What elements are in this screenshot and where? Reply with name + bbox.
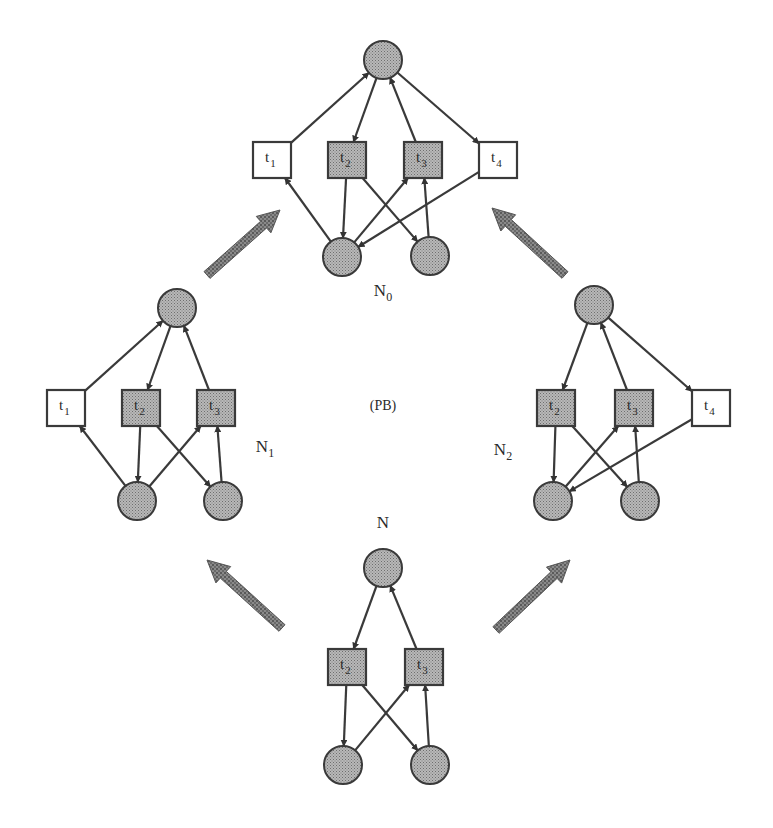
arc-N-p_br-to-t3 [425,685,429,746]
morphism-arrow-N1-to-N0 [204,210,280,278]
transition-N0-t4: t4 [479,142,517,178]
place-N-p_br [411,746,449,784]
arc-N2-t2-to-p_bl [554,426,556,482]
arc-N-p_bl-to-t3 [355,685,409,750]
arc-N1-t3-to-p_top [184,326,209,390]
arc-N1-p_br-to-t3 [217,426,221,482]
labels-layer: (PB) N0N1N2N [256,281,512,532]
arc-N2-t2-to-p_br [572,426,627,487]
place-N2-p_top [575,286,613,324]
morphism-arrow-N2-to-N0 [492,208,568,278]
petri-net-pushout-diagram: t1t2t3t4t1t2t3t2t3t4t2t3 (PB) N0N1N2N [0,0,773,828]
transition-N-t2: t2 [328,649,366,685]
place-N-p_top [364,549,402,587]
place-N1-p_br [204,482,242,520]
pushout-label: (PB) [370,398,397,414]
network-label-N1: N1 [256,437,274,460]
transition-N1-t3: t3 [197,390,235,426]
transition-N2-t2: t2 [537,390,575,426]
place-N1-p_top [158,289,196,327]
arc-N1-t2-to-p_bl [138,426,140,482]
arc-N0-t2-to-p_br [363,178,418,242]
arc-N0-t3-to-p_top [390,78,416,142]
transition-N1-t1: t1 [47,390,85,426]
arc-N0-p_bl-to-t1 [285,178,331,242]
transition-N0-t1: t1 [253,142,291,178]
place-N1-p_bl [118,482,156,520]
arc-N0-t4-to-p_bl [358,172,479,247]
arc-N1-t2-to-p_br [157,426,211,487]
morphism-arrow-N-to-N1 [207,560,285,631]
network-label-N: N [377,513,389,532]
arc-N0-p_top-to-t4 [397,72,479,143]
arc-N1-p_bl-to-t1 [80,426,126,486]
arc-N0-t2-to-p_bl [343,178,346,238]
arc-N-t3-to-p_top [390,586,416,649]
place-N2-p_br [621,482,659,520]
arc-N-p_top-to-t2 [354,586,377,649]
transition-N0-t2: t2 [328,142,366,178]
arc-N2-t4-to-p_bl [569,419,692,491]
transition-N2-t3: t3 [615,390,653,426]
arc-N2-t3-to-p_top [601,323,627,390]
place-N0-p_top [364,41,402,79]
morphism-arrow-N-to-N2 [493,560,570,633]
transition-N1-t2: t2 [122,390,160,426]
arc-N0-p_top-to-t2 [353,78,376,142]
arc-N2-p_br-to-t3 [635,426,639,482]
arc-N-t2-to-p_br [362,685,417,751]
arc-N0-p_br-to-t3 [424,178,428,237]
arc-N2-p_top-to-t4 [608,318,692,392]
network-label-N0: N0 [374,281,392,304]
transition-N-t3: t3 [405,649,443,685]
transition-N2-t4: t4 [692,390,730,426]
place-N-p_bl [324,746,362,784]
place-N2-p_bl [534,482,572,520]
arc-N-t2-to-p_bl [344,685,346,746]
network-label-N2: N2 [494,440,512,463]
transition-N0-t3: t3 [404,142,442,178]
arc-N1-p_bl-to-t3 [149,426,200,487]
place-N0-p_br [411,237,449,275]
arc-N2-p_top-to-t2 [563,323,588,390]
arc-N1-p_top-to-t2 [147,326,170,390]
place-N0-p_bl [323,238,361,276]
